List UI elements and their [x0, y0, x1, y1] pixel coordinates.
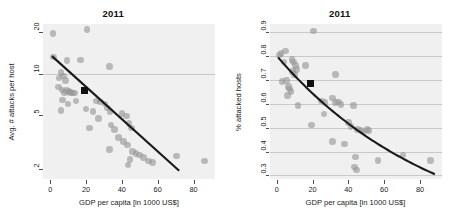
- x-tick-label: 80: [179, 185, 209, 194]
- x-tick-label: 40: [333, 185, 363, 194]
- x-tick-mark: [348, 180, 349, 184]
- x-tick-label: 60: [369, 185, 399, 194]
- y-tick-mark: [266, 32, 270, 33]
- right-panel: 2011 % attacked hosts GDP per capita [in…: [227, 0, 453, 223]
- x-tick-mark: [277, 180, 278, 184]
- trend-line: [270, 24, 442, 179]
- two-panel-scatter-figure: 2011 Avg. # attacks per host GDP per cap…: [0, 0, 453, 223]
- x-tick-label: 20: [298, 185, 328, 194]
- y-tick-mark: [39, 115, 43, 116]
- highlight-marker: [81, 87, 88, 94]
- x-tick-mark: [420, 180, 421, 184]
- right-panel-xlabel: GDP per capita [in 1000 US$]: [270, 198, 442, 207]
- y-tick-mark: [39, 32, 43, 33]
- left-panel-ylabel: Avg. # attacks per host: [7, 63, 16, 140]
- x-tick-mark: [122, 180, 123, 184]
- x-tick-label: 0: [262, 185, 292, 194]
- y-tick-mark: [266, 152, 270, 153]
- x-tick-label: 60: [143, 185, 173, 194]
- left-panel-title: 2011: [0, 8, 227, 19]
- x-tick-label: 80: [405, 185, 435, 194]
- right-panel-ylabel: % attacked hosts: [234, 73, 243, 131]
- right-panel-title: 2011: [227, 8, 453, 19]
- x-tick-mark: [384, 180, 385, 184]
- left-plot-area: [43, 24, 215, 179]
- y-tick-mark: [266, 104, 270, 105]
- x-tick-mark: [313, 180, 314, 184]
- y-tick-mark: [39, 169, 43, 170]
- trend-line: [43, 24, 215, 179]
- x-tick-label: 40: [107, 185, 137, 194]
- x-tick-mark: [86, 180, 87, 184]
- y-tick-mark: [266, 56, 270, 57]
- y-tick-mark: [266, 128, 270, 129]
- left-panel: 2011 Avg. # attacks per host GDP per cap…: [0, 0, 227, 223]
- highlight-marker: [307, 80, 314, 87]
- x-tick-mark: [194, 180, 195, 184]
- x-tick-label: 0: [35, 185, 65, 194]
- right-plot-area: [270, 24, 442, 179]
- y-tick-mark: [266, 175, 270, 176]
- x-tick-mark: [158, 180, 159, 184]
- x-tick-label: 20: [71, 185, 101, 194]
- y-tick-mark: [266, 80, 270, 81]
- y-tick-mark: [39, 74, 43, 75]
- x-tick-mark: [50, 180, 51, 184]
- left-panel-xlabel: GDP per capita [in 1000 US$]: [43, 198, 215, 207]
